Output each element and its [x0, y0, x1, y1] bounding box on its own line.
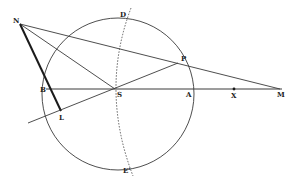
geometry-diagram: N D P B S A X M L E'	[0, 0, 298, 181]
label-N: N	[13, 16, 20, 25]
label-S: S	[117, 90, 122, 99]
label-M: M	[277, 90, 285, 99]
label-E: E'	[123, 166, 130, 175]
point-X	[233, 88, 236, 91]
label-P: P	[181, 54, 187, 63]
label-L: L	[59, 113, 64, 122]
label-X: X	[231, 91, 237, 100]
line-LP	[28, 63, 178, 123]
label-A: A	[185, 90, 192, 99]
line-NM	[20, 24, 280, 89]
label-D: D	[120, 10, 126, 19]
line-NL	[20, 24, 61, 111]
label-B: B	[40, 85, 46, 94]
